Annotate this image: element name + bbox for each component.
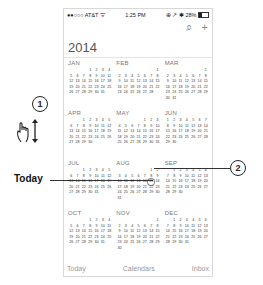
month-name: JUN bbox=[165, 110, 209, 116]
month-name: APR bbox=[68, 110, 112, 116]
month-days: 1234567891011121314151617181920212223242… bbox=[116, 118, 160, 146]
month-name: MAR bbox=[165, 60, 209, 66]
month-jan[interactable]: JAN1234567891011121314151617181920212223… bbox=[68, 60, 112, 110]
month-days: 1234567891011121314151617181920212223242… bbox=[116, 168, 160, 202]
clock: 1:25 PM bbox=[125, 12, 145, 18]
month-mar[interactable]: MAR1234567891011121314151617181920212223… bbox=[165, 60, 209, 110]
day-cell[interactable]: 27 bbox=[203, 185, 209, 191]
month-feb[interactable]: FEB1234567891011121314151617181920212223… bbox=[116, 60, 160, 110]
month-name: JUL bbox=[68, 160, 112, 166]
today-leader-line bbox=[50, 180, 153, 181]
month-name: JAN bbox=[68, 60, 112, 66]
day-cell[interactable]: 28 bbox=[148, 90, 154, 96]
day-cell[interactable]: 31 bbox=[100, 240, 106, 246]
month-days: 1234567891011121314151617181920212223242… bbox=[68, 168, 112, 196]
year-grid: JAN1234567891011121314151617181920212223… bbox=[68, 60, 209, 260]
month-jul[interactable]: JUL1234567891011121314151617181920212223… bbox=[68, 160, 112, 210]
month-may[interactable]: MAY1234567891011121314151617181920212223… bbox=[116, 110, 160, 160]
month-name: SEP bbox=[165, 160, 209, 166]
month-days: 1234567891011121314151617181920212223242… bbox=[116, 68, 160, 96]
month-days: 1234567891011121314151617181920212223242… bbox=[165, 168, 209, 196]
month-name: NOV bbox=[116, 210, 160, 216]
month-name: AUG bbox=[116, 160, 160, 166]
day-cell[interactable]: 31 bbox=[93, 190, 99, 196]
day-cell[interactable]: 30 bbox=[177, 190, 183, 196]
day-cell[interactable]: 30 bbox=[87, 140, 93, 146]
day-cell[interactable]: 29 bbox=[203, 90, 209, 96]
callout-1: 1 bbox=[32, 96, 48, 112]
day-cell[interactable]: 31 bbox=[154, 140, 160, 146]
day-cell[interactable]: 26 bbox=[106, 185, 112, 191]
month-name: MAY bbox=[116, 110, 160, 116]
tab-bar: Today Calendars Inbox bbox=[67, 265, 209, 272]
day-cell[interactable]: 27 bbox=[203, 235, 209, 241]
month-days: 1234567891011121314151617181920212223242… bbox=[165, 68, 209, 102]
add-event-icon[interactable]: + bbox=[202, 21, 208, 34]
month-nov[interactable]: NOV1234567891011121314151617181920212223… bbox=[116, 210, 160, 260]
month-name: DEC bbox=[165, 210, 209, 216]
callout-2-leader-line bbox=[154, 168, 230, 169]
status-bar: ●●○○○ AT&T ᯤ 1:25 PM ⊕ ↗ ✱ 28% bbox=[67, 11, 209, 19]
carrier-signal: ●●○○○ AT&T ᯤ bbox=[67, 11, 105, 19]
month-days: 1234567891011121314151617181920212223242… bbox=[68, 68, 112, 96]
today-annotation-label: Today bbox=[14, 173, 43, 184]
month-name: OCT bbox=[68, 210, 112, 216]
day-cell[interactable]: 25 bbox=[106, 235, 112, 241]
month-days: 1234567891011121314151617181920212223242… bbox=[116, 218, 160, 252]
battery-icon bbox=[198, 12, 209, 18]
day-cell[interactable]: 31 bbox=[100, 90, 106, 96]
month-dec[interactable]: DEC1234567891011121314151617181920212223… bbox=[165, 210, 209, 260]
tab-today[interactable]: Today bbox=[67, 265, 86, 272]
day-cell[interactable]: 30 bbox=[116, 246, 122, 252]
month-days: 1234567891011121314151617181920212223242… bbox=[68, 118, 112, 146]
month-days: 1234567891011121314151617181920212223242… bbox=[68, 218, 112, 246]
status-right: ⊕ ↗ ✱ 28% bbox=[166, 12, 209, 19]
day-cell[interactable]: 31 bbox=[171, 96, 177, 102]
month-oct[interactable]: OCT1234567891011121314151617181920212223… bbox=[68, 210, 112, 260]
divider bbox=[64, 57, 212, 58]
phone-screen: ●●○○○ AT&T ᯤ 1:25 PM ⊕ ↗ ✱ 28% ⌕ + 2014 … bbox=[63, 8, 213, 277]
search-icon[interactable]: ⌕ bbox=[186, 21, 192, 34]
day-cell[interactable]: 26 bbox=[106, 135, 112, 141]
day-cell[interactable]: 31 bbox=[184, 240, 190, 246]
callout-2: 2 bbox=[230, 160, 246, 176]
month-jun[interactable]: JUN1234567891011121314151617181920212223… bbox=[165, 110, 209, 160]
tab-inbox[interactable]: Inbox bbox=[192, 265, 209, 272]
day-cell[interactable]: 30 bbox=[171, 140, 177, 146]
day-cell[interactable]: 25 bbox=[106, 85, 112, 91]
month-apr[interactable]: APR1234567891011121314151617181920212223… bbox=[68, 110, 112, 160]
swipe-gesture-icon bbox=[15, 118, 39, 144]
tab-calendars[interactable]: Calendars bbox=[123, 265, 155, 272]
month-name: FEB bbox=[116, 60, 160, 66]
month-days: 1234567891011121314151617181920212223242… bbox=[165, 218, 209, 246]
day-cell[interactable]: 28 bbox=[203, 135, 209, 141]
day-cell[interactable]: 30 bbox=[154, 190, 160, 196]
day-cell[interactable]: 29 bbox=[154, 240, 160, 246]
year-title: 2014 bbox=[68, 40, 97, 55]
month-days: 1234567891011121314151617181920212223242… bbox=[165, 118, 209, 146]
day-cell[interactable]: 22 bbox=[154, 85, 160, 91]
top-toolbar: ⌕ + bbox=[186, 21, 208, 34]
day-cell[interactable]: 31 bbox=[116, 196, 122, 202]
